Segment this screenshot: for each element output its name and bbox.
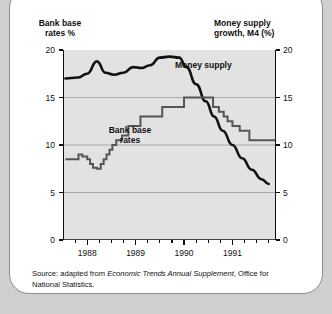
axis-tick-mark xyxy=(59,239,63,241)
x-axis-tick-mark xyxy=(135,240,136,245)
money-supply-series-label: Money supply xyxy=(175,60,251,70)
axis-tick-label: 0 xyxy=(37,235,55,245)
source-note: Source: adapted from Economic Trends Ann… xyxy=(32,268,290,290)
series-money-supply xyxy=(65,57,268,184)
axis-tick-mark xyxy=(276,144,280,146)
axis-tick-label: 20 xyxy=(283,45,301,55)
source-prefix: Source: adapted from xyxy=(32,269,107,278)
axis-tick-label: 20 xyxy=(37,45,55,55)
source-publication: Economic Trends Annual Supplement xyxy=(107,269,234,278)
x-axis-tick-mark xyxy=(268,240,269,243)
axis-tick-mark xyxy=(276,97,280,99)
axis-tick-mark xyxy=(59,144,63,146)
chart-figure: Bank base rates % Money supply growth, M… xyxy=(0,0,332,314)
x-axis-tick-label: 1990 xyxy=(164,248,204,258)
x-axis-tick-mark xyxy=(171,240,172,243)
x-axis-tick-label: 1988 xyxy=(67,248,107,258)
x-axis-tick-mark xyxy=(159,240,160,243)
bank-base-series-label: Bank base rates xyxy=(100,125,160,145)
x-axis-tick-mark xyxy=(111,240,112,243)
axis-tick-mark xyxy=(59,49,63,51)
x-axis-tick-mark xyxy=(99,240,100,243)
x-axis-tick-mark xyxy=(87,240,88,245)
x-axis-tick-mark xyxy=(196,240,197,243)
axis-tick-mark xyxy=(276,49,280,51)
plot-area xyxy=(63,50,276,240)
axis-tick-mark xyxy=(59,97,63,99)
plot-svg xyxy=(63,50,276,240)
x-axis-tick-label: 1989 xyxy=(116,248,156,258)
x-axis-tick-mark xyxy=(232,240,233,245)
axis-tick-mark xyxy=(59,192,63,194)
axis-tick-label: 5 xyxy=(37,188,55,198)
x-axis-tick-mark xyxy=(75,240,76,243)
axis-tick-label: 15 xyxy=(283,93,301,103)
axis-tick-mark xyxy=(276,239,280,241)
x-axis-tick-label: 1991 xyxy=(212,248,252,258)
x-axis-tick-mark xyxy=(244,240,245,243)
x-axis-tick-mark xyxy=(256,240,257,243)
left-axis-title: Bank base rates % xyxy=(14,18,106,38)
x-axis-tick-mark xyxy=(147,240,148,243)
axis-tick-label: 15 xyxy=(37,93,55,103)
x-axis-tick-mark xyxy=(183,240,184,245)
axis-tick-label: 10 xyxy=(283,140,301,150)
axis-tick-label: 5 xyxy=(283,188,301,198)
x-axis-tick-mark xyxy=(220,240,221,243)
axis-tick-label: 10 xyxy=(37,140,55,150)
axis-tick-label: 0 xyxy=(283,235,301,245)
axis-tick-mark xyxy=(276,192,280,194)
x-axis-tick-mark xyxy=(123,240,124,243)
right-axis-title: Money supply growth, M4 (%) xyxy=(214,18,324,38)
x-axis-tick-mark xyxy=(208,240,209,243)
